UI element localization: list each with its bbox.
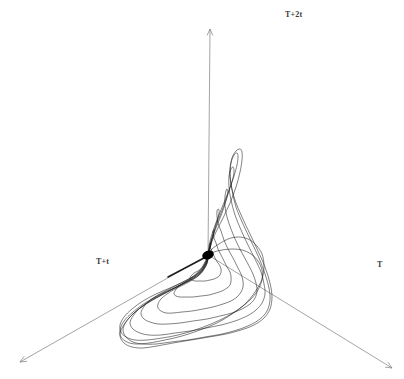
axis-label-t-plus-2tau: T+2t bbox=[285, 10, 302, 19]
axis-label-t: T bbox=[377, 260, 383, 269]
axis-label-t-plus-tau: T+t bbox=[96, 257, 109, 266]
plot-background bbox=[0, 0, 404, 379]
attractor-figure: T+2t T+t T bbox=[0, 0, 404, 379]
plot-canvas bbox=[0, 0, 404, 379]
